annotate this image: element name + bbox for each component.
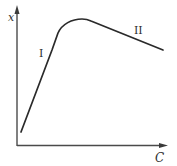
- region-1-label: I: [39, 47, 43, 60]
- y-axis-arrow-icon: [15, 5, 20, 14]
- region-2-label: II: [134, 24, 143, 37]
- x-axis-arrow-icon: [159, 143, 168, 148]
- chart: x C I II: [0, 0, 177, 166]
- x-axis-label: C: [155, 151, 164, 165]
- y-axis-label: x: [8, 11, 15, 24]
